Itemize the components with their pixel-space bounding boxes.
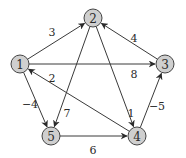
node-label: 1 <box>16 58 24 72</box>
node-label: 4 <box>133 130 141 144</box>
edge-weight-1-to-3: 8 <box>131 68 138 81</box>
edge-weight-3-to-2: 4 <box>131 32 138 45</box>
node-label: 2 <box>89 12 97 26</box>
node-1: 1 <box>11 55 29 73</box>
node-label: 3 <box>161 58 169 72</box>
node-5: 5 <box>42 127 60 145</box>
edge-weight-4-to-3: −5 <box>149 100 165 113</box>
edge-weight-4-to-1: 2 <box>49 72 56 85</box>
edges-layer <box>24 23 162 136</box>
edge-weight-1-to-2: 3 <box>49 26 56 39</box>
edge-2-to-5 <box>54 26 90 126</box>
node-label: 5 <box>47 130 55 144</box>
nodes-layer: 12345 <box>11 9 174 145</box>
graph-diagram: 38−41742−56 12345 <box>0 0 186 158</box>
node-3: 3 <box>156 55 174 73</box>
edge-weight-2-to-5: 7 <box>64 107 71 120</box>
edge-weight-5-to-4: 6 <box>90 144 97 157</box>
node-2: 2 <box>84 9 102 27</box>
edge-weight-1-to-5: −4 <box>22 98 38 111</box>
edge-weight-2-to-4: 1 <box>128 107 135 120</box>
edge-3-to-2 <box>101 23 157 59</box>
edge-1-to-2 <box>28 23 85 59</box>
edge-4-to-1 <box>29 69 130 131</box>
node-4: 4 <box>128 127 146 145</box>
